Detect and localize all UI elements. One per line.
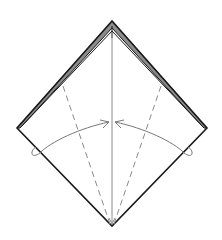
- left-fold-arrow: [32, 120, 109, 155]
- right-valley-fold: [114, 86, 161, 224]
- left-valley-fold: [63, 86, 110, 224]
- origami-diagram: [0, 0, 222, 240]
- right-fold-arrow: [115, 120, 192, 155]
